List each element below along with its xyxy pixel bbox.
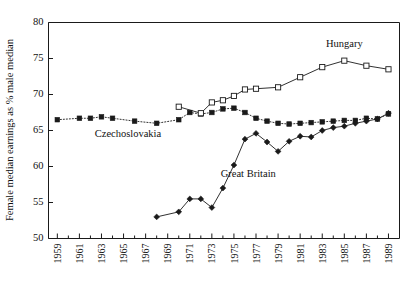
data-point <box>253 86 258 91</box>
data-point <box>265 119 270 124</box>
data-point <box>320 65 325 70</box>
data-point <box>220 98 225 103</box>
data-point <box>210 110 215 115</box>
x-tick-label: 1989 <box>383 244 394 264</box>
data-point <box>243 110 248 115</box>
data-point <box>77 116 82 121</box>
data-point <box>342 58 347 63</box>
x-tick-label: 1963 <box>96 244 107 264</box>
y-tick-label: 70 <box>33 88 44 99</box>
data-point <box>110 116 115 121</box>
data-point <box>176 117 181 122</box>
series-label-hungary: Hungary <box>326 38 363 49</box>
data-point <box>275 85 280 90</box>
data-point <box>55 117 60 122</box>
data-point <box>132 119 137 124</box>
x-tick-label: 1979 <box>273 244 284 264</box>
x-tick-label: 1987 <box>361 244 372 264</box>
x-tick-label: 1981 <box>295 244 306 264</box>
data-point <box>232 106 237 111</box>
data-point <box>298 75 303 80</box>
x-tick-label: 1965 <box>118 244 129 264</box>
data-point <box>99 115 104 120</box>
data-point <box>364 63 369 68</box>
y-axis-title: Female median earnings as % male median <box>4 38 15 221</box>
data-point <box>176 104 181 109</box>
data-point <box>342 118 347 123</box>
data-point <box>309 120 314 125</box>
y-tick-label: 80 <box>33 16 44 27</box>
data-point <box>276 121 281 126</box>
x-tick-label: 1967 <box>140 244 151 264</box>
series-label-czechoslovakia: Czechoslovakia <box>95 128 162 139</box>
y-tick-label: 50 <box>33 232 44 243</box>
data-point <box>88 116 93 121</box>
data-point <box>254 116 259 121</box>
y-tick-label: 65 <box>33 124 44 135</box>
data-point <box>154 121 159 126</box>
data-point <box>209 100 214 105</box>
x-tick-label: 1983 <box>317 244 328 264</box>
y-tick-label: 60 <box>33 160 44 171</box>
data-point <box>221 107 226 112</box>
data-point <box>386 67 391 72</box>
x-tick-label: 1969 <box>162 244 173 264</box>
x-tick-label: 1985 <box>339 244 350 264</box>
y-tick-label: 75 <box>33 52 44 63</box>
x-tick-label: 1977 <box>251 244 262 264</box>
x-tick-label: 1975 <box>229 244 240 264</box>
x-tick-label: 1959 <box>52 244 63 264</box>
data-point <box>331 119 336 124</box>
x-tick-label: 1973 <box>206 244 217 264</box>
data-point <box>287 122 292 127</box>
data-point <box>198 111 203 116</box>
data-point <box>320 120 325 125</box>
y-tick-label: 55 <box>33 196 44 207</box>
x-tick-label: 1971 <box>184 244 195 264</box>
series-label-great-britain: Great Britain <box>221 168 277 179</box>
data-point <box>298 121 303 126</box>
x-tick-label: 1961 <box>74 244 85 264</box>
data-point <box>242 87 247 92</box>
chart-container: 50556065707580 1959196119631965196719691… <box>0 0 414 285</box>
data-point <box>231 93 236 98</box>
earnings-ratio-line-chart: 50556065707580 1959196119631965196719691… <box>0 0 414 285</box>
